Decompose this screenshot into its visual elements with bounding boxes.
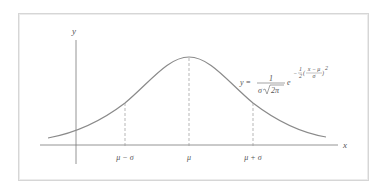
formula-exp-open-paren: (: [303, 70, 306, 77]
formula-exp-power: 2: [325, 65, 328, 71]
normal-pdf-formula: y = 1 σ 2π e − 1 2 ( x − μ σ ) 2: [239, 65, 328, 95]
formula-base: e: [287, 78, 291, 87]
formula-exp-half-num: 1: [299, 66, 302, 72]
y-axis-label: y: [71, 26, 76, 36]
formula-exp-inner-den: σ: [313, 73, 317, 79]
formula-exp-sign: −: [293, 70, 297, 76]
bell-curve: [48, 57, 326, 138]
formula-lhs: y =: [239, 78, 251, 87]
x-axis-label: x: [342, 140, 347, 150]
formula-exp-half-den: 2: [299, 73, 302, 79]
formula-denominator-root: 2π: [271, 86, 280, 95]
formula-denominator-sigma: σ: [258, 86, 263, 95]
tick-label-mu-minus-sigma: μ − σ: [115, 153, 134, 162]
formula-exp-inner-num: x − μ: [307, 66, 321, 72]
formula-numerator: 1: [269, 74, 273, 83]
normal-distribution-diagram: y x μ − σ μ μ + σ y = 1 σ 2π e − 1 2 ( x…: [0, 0, 383, 193]
tick-label-mu-plus-sigma: μ + σ: [243, 153, 262, 162]
tick-label-mu: μ: [186, 153, 191, 162]
formula-exp-close-paren: ): [321, 70, 324, 77]
